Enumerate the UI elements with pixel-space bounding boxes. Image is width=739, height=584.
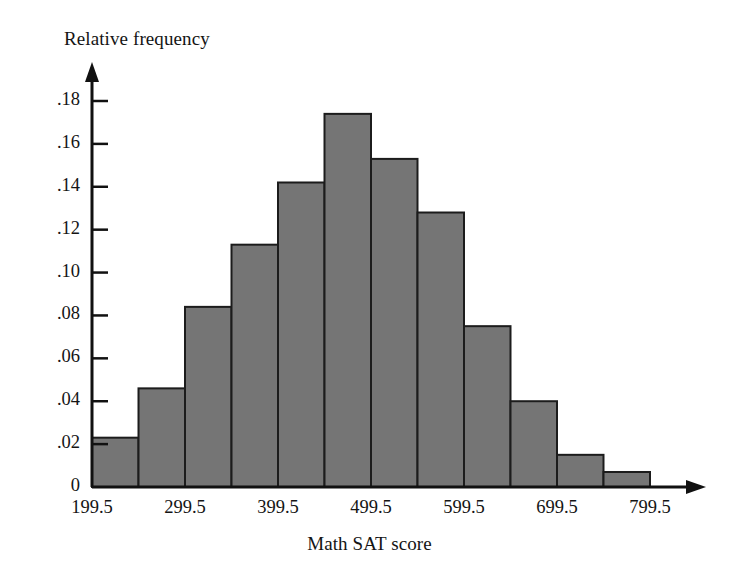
x-tick-label: 599.5 (419, 497, 509, 518)
y-tick-label: .12 (36, 218, 80, 239)
histogram-bar (464, 326, 511, 487)
y-axis-arrowhead (85, 62, 99, 82)
y-tick-label: 0 (36, 475, 80, 496)
histogram-bar (604, 472, 651, 487)
histogram-bar (418, 213, 465, 487)
bars-group (92, 114, 650, 487)
histogram-bar (511, 401, 558, 487)
x-axis-title: Math SAT score (0, 533, 739, 555)
x-axis-arrowhead (686, 480, 706, 494)
y-tick-label: .06 (36, 346, 80, 367)
axis-ticks-group (92, 101, 108, 444)
histogram-bar (278, 182, 325, 487)
y-tick-label: .04 (36, 389, 80, 410)
x-tick-label: 799.5 (605, 497, 695, 518)
y-tick-label: .10 (36, 261, 80, 282)
y-tick-label: .02 (36, 432, 80, 453)
y-tick-label: .08 (36, 303, 80, 324)
histogram-bar (325, 114, 372, 487)
histogram-bar (371, 159, 418, 487)
x-tick-label: 499.5 (326, 497, 416, 518)
histogram-bar (557, 455, 604, 487)
y-tick-label: .16 (36, 132, 80, 153)
histogram-bar (139, 388, 186, 487)
y-axis-title: Relative frequency (64, 28, 210, 50)
x-tick-label: 199.5 (47, 497, 137, 518)
x-tick-label: 399.5 (233, 497, 323, 518)
x-tick-label: 299.5 (140, 497, 230, 518)
y-tick-label: .18 (36, 89, 80, 110)
x-tick-label: 699.5 (512, 497, 602, 518)
histogram-bar (232, 245, 279, 487)
histogram-chart: Relative frequency Math SAT score 0.02.0… (0, 0, 739, 584)
y-tick-label: .14 (36, 175, 80, 196)
histogram-bar (185, 307, 232, 487)
